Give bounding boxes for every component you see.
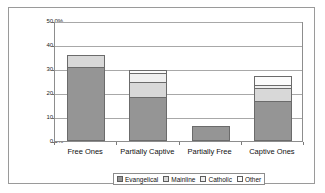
bar-segment[interactable] <box>254 101 292 141</box>
bar-stack[interactable] <box>129 70 167 141</box>
gridline <box>55 46 302 47</box>
bar-stack[interactable] <box>192 126 230 141</box>
x-axis-tick-label: Partially Captive <box>116 147 178 156</box>
legend-item: Evangelical <box>117 176 158 183</box>
chart-container: 0.0%10.0%20.0%30.0%40.0%50.0% Free OnesP… <box>8 7 315 184</box>
bar-stack[interactable] <box>254 76 292 141</box>
bar-segment[interactable] <box>254 88 292 101</box>
chart-legend: EvangelicalMainlineCatholicOther <box>113 173 265 185</box>
legend-item: Other <box>237 176 261 183</box>
x-axis-tick-label: Captive Ones <box>241 147 303 156</box>
bar-segment[interactable] <box>254 76 292 84</box>
legend-item: Mainline <box>163 176 195 183</box>
x-axis-tick <box>179 142 180 145</box>
x-axis-tick-label: Partially Free <box>179 147 241 156</box>
bar-segment[interactable] <box>129 97 167 141</box>
legend-label: Catholic <box>208 176 231 183</box>
bar-stack[interactable] <box>67 55 105 141</box>
legend-item: Catholic <box>200 176 231 183</box>
bar-segment[interactable] <box>67 55 105 68</box>
legend-swatch-icon <box>117 176 123 182</box>
legend-label: Evangelical <box>125 176 158 183</box>
plot-area <box>54 22 303 142</box>
legend-swatch-icon <box>163 176 169 182</box>
legend-swatch-icon <box>200 176 206 182</box>
legend-label: Other <box>245 176 261 183</box>
bar-segment[interactable] <box>129 73 167 83</box>
x-axis-tick <box>303 142 304 145</box>
bar-segment[interactable] <box>67 67 105 141</box>
gridline <box>55 22 302 23</box>
bar-segment[interactable] <box>129 82 167 96</box>
x-axis-tick <box>241 142 242 145</box>
x-axis-tick-label: Free Ones <box>54 147 116 156</box>
legend-swatch-icon <box>237 176 243 182</box>
bar-segment[interactable] <box>192 126 230 141</box>
x-axis-tick <box>116 142 117 145</box>
legend-label: Mainline <box>171 176 195 183</box>
x-axis-tick <box>54 142 55 145</box>
